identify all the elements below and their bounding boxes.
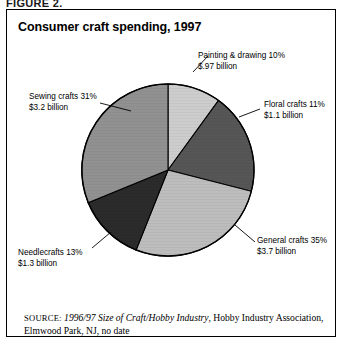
source-kicker: SOURCE: bbox=[24, 313, 62, 323]
pie-slice-painting bbox=[168, 84, 219, 170]
pie-label-general: General crafts 35% $3.7 billion bbox=[257, 236, 327, 257]
pie-slice-floral bbox=[168, 100, 254, 191]
pie-slice-needlecrafts bbox=[88, 170, 168, 250]
pie-label-floral-line1: Floral crafts 11% bbox=[264, 100, 325, 111]
pie-label-needlecrafts-line2: $1.3 billion bbox=[18, 259, 83, 270]
leader-line-general bbox=[235, 225, 255, 242]
pie-label-floral: Floral crafts 11% $1.1 billion bbox=[264, 100, 325, 121]
pie-chart bbox=[7, 10, 337, 338]
leader-line-sewing bbox=[100, 103, 131, 111]
leader-line-needle bbox=[92, 232, 111, 248]
pie-label-floral-line2: $1.1 billion bbox=[264, 111, 325, 122]
figure-caption: FIGURE 2. bbox=[6, 0, 63, 9]
page-title: Consumer craft spending, 1997 bbox=[18, 20, 201, 34]
pie-label-sewing: Sewing crafts 31% $3.2 billion bbox=[29, 92, 97, 113]
pie-slice-general bbox=[136, 170, 251, 256]
source-note: SOURCE: 1996/97 Size of Craft/Hobby Indu… bbox=[24, 312, 324, 337]
pie-label-needlecrafts: Needlecrafts 13% $1.3 billion bbox=[18, 248, 83, 269]
pie-label-painting-line1: Painting & drawing 10% bbox=[198, 51, 285, 62]
pie-label-needlecrafts-line1: Needlecrafts 13% bbox=[18, 248, 83, 259]
source-title: 1996/97 Size of Craft/Hobby Industry bbox=[64, 312, 208, 323]
pie-label-general-line2: $3.7 billion bbox=[257, 247, 327, 258]
pie-label-painting: Painting & drawing 10% $.97 billion bbox=[198, 51, 285, 72]
pie-leader-lines bbox=[92, 56, 260, 248]
pie-label-painting-line2: $.97 billion bbox=[198, 62, 285, 73]
pie-label-sewing-line1: Sewing crafts 31% bbox=[29, 92, 97, 103]
figure-frame: Consumer craft spending, 1997 bbox=[6, 9, 336, 337]
pie-slices bbox=[82, 84, 254, 256]
pie-label-sewing-line2: $3.2 billion bbox=[29, 103, 97, 114]
pie-label-general-line1: General crafts 35% bbox=[257, 236, 327, 247]
leader-line-floral bbox=[239, 109, 260, 117]
